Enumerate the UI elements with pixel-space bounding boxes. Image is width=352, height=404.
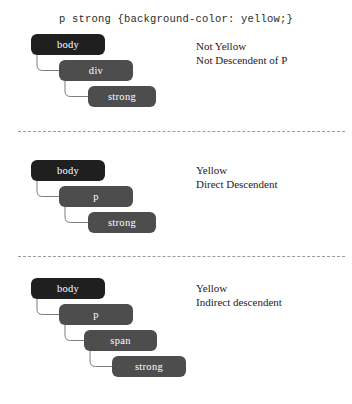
node-body: body <box>31 160 105 181</box>
node-span: span <box>84 330 157 351</box>
separator-1 <box>18 131 345 132</box>
annotation-line-1: Yellow <box>196 282 282 296</box>
example-block-3: body p span strong Yellow Indirect desce… <box>0 276 352 394</box>
annotation-block-2: Yellow Direct Descendent <box>196 164 278 191</box>
css-rule-text: p strong {background-color: yellow;} <box>0 13 352 25</box>
annotation-line-2: Indirect descendent <box>196 296 282 310</box>
example-block-1: body div strong Not Yellow Not Descenden… <box>0 32 352 124</box>
separator-2 <box>18 256 345 257</box>
node-p: p <box>59 186 133 207</box>
node-strong: strong <box>112 356 186 377</box>
annotation-line-1: Not Yellow <box>196 40 287 54</box>
node-strong: strong <box>88 86 156 107</box>
annotation-block-1: Not Yellow Not Descendent of P <box>196 40 287 67</box>
node-body: body <box>31 34 105 55</box>
annotation-line-1: Yellow <box>196 164 278 178</box>
diagram-page: p strong {background-color: yellow;} bod… <box>0 0 352 404</box>
example-block-2: body p strong Yellow Direct Descendent <box>0 158 352 250</box>
annotation-line-2: Not Descendent of P <box>196 54 287 68</box>
node-div: div <box>59 60 133 81</box>
node-p: p <box>59 304 133 325</box>
node-strong: strong <box>88 212 156 233</box>
annotation-line-2: Direct Descendent <box>196 178 278 192</box>
annotation-block-3: Yellow Indirect descendent <box>196 282 282 309</box>
node-body: body <box>31 278 105 299</box>
